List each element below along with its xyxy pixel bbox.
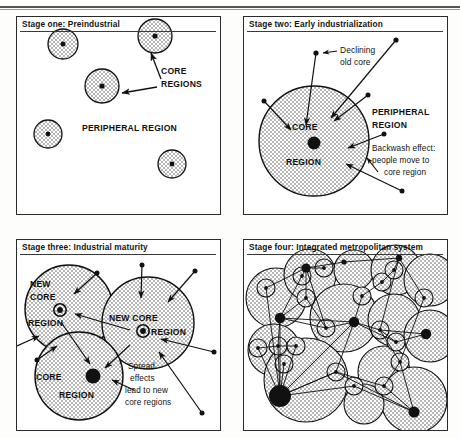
core-region-line2: REGION [286, 157, 321, 167]
panel-title-stage-four: Stage four: Integrated metropolitan syst… [249, 242, 423, 252]
stage-one-canvas: CORE REGIONS PERIPHERAL REGION [17, 17, 220, 214]
spread-effects-line1: Spread [128, 362, 155, 371]
new-core-left-line1: NEW [30, 279, 51, 289]
panel-title-rule-4 [247, 254, 443, 255]
new-core-left-line3: REGION [28, 318, 63, 328]
spread-effects-line4: core regions [125, 398, 171, 407]
spread-effects-line3: lead to new [125, 386, 168, 395]
spread-effects-line2: effects [130, 374, 155, 383]
panel-title-stage-three: Stage three: Industrial maturity [22, 242, 148, 252]
stage-two-canvas: Declining old core PERIPHERAL REGION COR… [244, 17, 447, 214]
declining-old-core-pointer [323, 51, 337, 53]
backwash-line3: core region [384, 168, 426, 177]
core-regions-label-line2: REGIONS [161, 79, 202, 89]
figure-root: CORE REGIONS PERIPHERAL REGION Stage one… [0, 0, 460, 438]
core-circles [34, 19, 186, 178]
peripheral-region-line1: PERIPHERAL [372, 107, 429, 117]
declining-old-core-line2: old core [340, 57, 371, 67]
new-core-right-line1: NEW CORE [109, 313, 158, 323]
core-regions-arrows [122, 53, 161, 93]
panel-title-rule-2 [247, 31, 443, 32]
backwash-line2: people move to [372, 156, 430, 165]
peripheral-region-label: PERIPHERAL REGION [82, 123, 177, 133]
panel-stage-two: Declining old core PERIPHERAL REGION COR… [243, 16, 448, 215]
page-top-rule [0, 6, 460, 8]
panel-title-rule-1 [20, 31, 216, 32]
panel-title-stage-two: Stage two: Early industrialization [249, 19, 383, 29]
new-core-left-line2: CORE [30, 292, 56, 302]
core-regions-label-line1: CORE [161, 66, 187, 76]
stage-three-canvas: NEW CORE REGION NEW CORE REGION CORE REG… [17, 240, 220, 430]
backwash-line1: Backwash effect: [372, 144, 435, 153]
core-left-line1: CORE [36, 372, 62, 382]
stage-four-canvas [244, 240, 447, 430]
core-left-line2: REGION [59, 390, 94, 400]
panel-title-rule-3 [20, 254, 216, 255]
panel-stage-three: NEW CORE REGION NEW CORE REGION CORE REG… [16, 239, 221, 431]
core-node-main [86, 369, 101, 384]
page-top-rule-thin [0, 9, 460, 10]
new-core-right-line2: REGION [151, 327, 186, 337]
panel-title-stage-one: Stage one: Preindustrial [22, 19, 120, 29]
core-region-line1: CORE [292, 122, 318, 132]
panel-stage-four: Stage four: Integrated metropolitan syst… [243, 239, 448, 431]
declining-old-core-line1: Declining [340, 45, 376, 55]
core-region-big-circle [259, 86, 369, 196]
peripheral-region-line2: REGION [372, 120, 407, 130]
panel-stage-one: CORE REGIONS PERIPHERAL REGION Stage one… [16, 16, 221, 215]
